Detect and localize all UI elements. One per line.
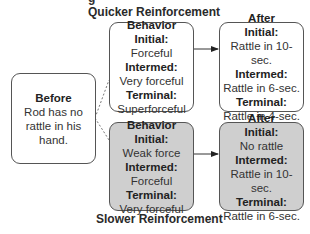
intermed-value: Rattle in 6-sec.: [223, 81, 300, 95]
initial-value: No rattle: [240, 139, 283, 153]
initial-value: Rattle in 10-sec.: [220, 39, 303, 67]
terminal-label: Terminal:: [126, 188, 177, 202]
terminal-label: Terminal:: [126, 88, 177, 102]
initial-label: Initial:: [245, 125, 279, 139]
slower-behavior-box: Behavior Initial: Weak force Intermed: F…: [109, 122, 194, 211]
initial-value: Forceful: [131, 46, 173, 60]
dashed-link-quicker: [95, 80, 109, 118]
quicker-behavior-box: Behavior Initial: Forceful Intermed: Ver…: [109, 22, 194, 112]
behavior-heading: Behavior: [127, 118, 176, 132]
after-heading: After: [248, 111, 275, 125]
initial-label: Initial:: [135, 132, 169, 146]
behavior-heading: Behavior: [127, 18, 176, 32]
intermed-label: Intermed:: [235, 153, 287, 167]
intermed-value: Very forceful: [120, 74, 184, 88]
initial-label: Initial:: [245, 25, 279, 39]
intermed-label: Intermed:: [125, 160, 177, 174]
before-box: Before Rod has no rattle in his hand.: [11, 73, 96, 164]
before-line: rattle in his: [26, 119, 82, 133]
initial-value: Weak force: [123, 146, 181, 160]
terminal-value: Rattle in 6-sec.: [223, 209, 300, 223]
terminal-label: Terminal:: [236, 95, 287, 109]
dashed-link-slower: [95, 118, 109, 140]
before-line: hand.: [39, 133, 68, 147]
intermed-label: Intermed:: [125, 60, 177, 74]
intermed-value: Rattle in 10-sec.: [220, 167, 303, 195]
initial-label: Initial:: [135, 32, 169, 46]
terminal-label: Terminal:: [236, 195, 287, 209]
after-heading: After: [248, 11, 275, 25]
intermed-label: Intermed:: [235, 67, 287, 81]
terminal-value: Superforceful: [117, 102, 185, 116]
intermed-value: Forceful: [131, 174, 173, 188]
before-line: Rod has no: [24, 105, 83, 119]
slower-reinforcement-title: Slower Reinforcement: [96, 212, 223, 226]
quicker-after-box: After Initial: Rattle in 10-sec. Interme…: [219, 22, 304, 112]
before-heading: Before: [35, 91, 71, 105]
slower-after-box: After Initial: No rattle Intermed: Rattl…: [219, 122, 304, 211]
